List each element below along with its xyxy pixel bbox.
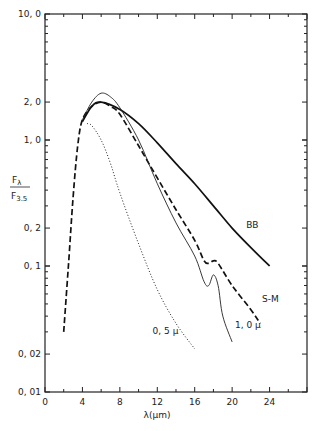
svg-text:0, 02: 0, 02 [18,349,41,359]
svg-text:8: 8 [117,397,123,407]
curve-label: BB [246,220,258,230]
y-axis-label: Fλ F3.5 [10,175,30,203]
chart-canvas: 10, 02, 01, 00, 20, 10, 020, 01 04812162… [0,0,315,431]
svg-text:0, 2: 0, 2 [24,223,41,233]
svg-text:24: 24 [264,397,276,407]
svg-text:20: 20 [226,397,238,407]
svg-text:16: 16 [189,397,201,407]
svg-text:10, 0: 10, 0 [18,9,41,19]
svg-text:Fλ: Fλ [12,175,21,187]
svg-text:12: 12 [152,397,163,407]
svg-text:0, 1: 0, 1 [24,261,41,271]
x-tick-labels: 04812162024 [42,397,275,407]
y-tick-labels: 10, 02, 01, 00, 20, 10, 020, 01 [18,9,41,397]
curve-label: S-M [262,294,279,304]
svg-text:4: 4 [80,397,86,407]
x-axis-label: λ(μm) [144,410,171,420]
curve-label: 0, 5 μ [153,326,179,336]
curve-label: 1, 0 μ [235,320,261,330]
svg-text:1, 0: 1, 0 [24,135,41,145]
curves [64,93,270,349]
svg-text:0: 0 [42,397,48,407]
curve-05 [87,124,195,349]
svg-text:0, 01: 0, 01 [18,387,41,397]
curve-10 [82,93,232,342]
curve-bb [82,102,269,266]
svg-text:2, 0: 2, 0 [24,97,41,107]
curve-sm [64,102,261,332]
svg-text:F3.5: F3.5 [11,191,27,203]
